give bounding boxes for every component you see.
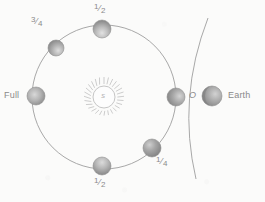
moon-top-half: [93, 20, 111, 38]
earth-sphere: [202, 86, 222, 106]
sun-core: [93, 86, 115, 108]
moon-three-quarter: [48, 40, 64, 56]
moon-full: [27, 87, 45, 105]
sun-symbol: [84, 77, 124, 116]
moon-quarter: [143, 139, 161, 157]
moon-phase-diagram: [0, 0, 265, 202]
moon-bottom-half: [93, 157, 111, 175]
moon-new: [167, 88, 185, 106]
